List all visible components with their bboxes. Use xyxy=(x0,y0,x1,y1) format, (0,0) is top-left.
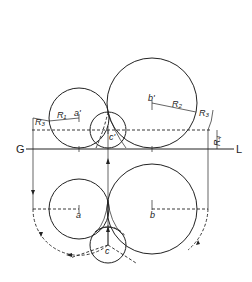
top-view: a b c xyxy=(33,164,208,263)
line-c-right xyxy=(108,245,136,263)
front-view: a' b' c' R₁ R₂ R₃ R₃ R₄ xyxy=(32,58,222,149)
label-r3-left: R₃ xyxy=(35,117,45,127)
projection-diagram: a' b' c' R₁ R₂ R₃ R₃ R₄ G L xyxy=(0,0,252,282)
label-a: a xyxy=(76,210,81,220)
arc-arrow-right xyxy=(196,240,200,245)
label-r2: R₂ xyxy=(172,99,182,109)
label-c: c xyxy=(105,246,110,256)
line-c-left xyxy=(70,245,108,258)
label-g: G xyxy=(16,143,25,155)
label-r1: R₁ xyxy=(57,110,66,120)
projector-center-arrow xyxy=(106,158,110,164)
arc-arrow-left xyxy=(39,232,43,237)
locus-arc-left xyxy=(33,209,108,255)
label-l: L xyxy=(236,143,242,155)
label-a-prime: a' xyxy=(74,108,81,118)
label-c-prime: c' xyxy=(109,132,116,142)
label-b-prime: b' xyxy=(148,93,155,103)
projector-left-arrow xyxy=(31,190,35,195)
label-r3-right: R₃ xyxy=(199,108,209,118)
label-b: b xyxy=(150,210,155,220)
